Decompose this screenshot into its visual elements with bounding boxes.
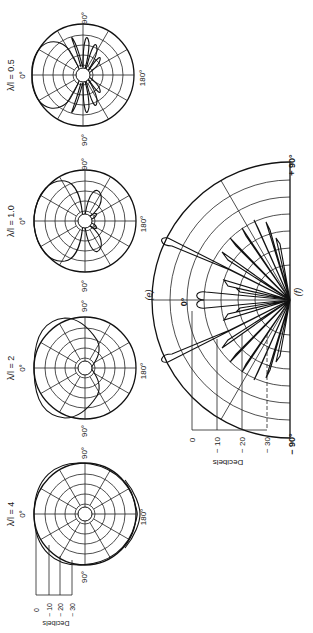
- label-90deg-top: 90°: [80, 158, 89, 170]
- plot-title-lambda-2: λ/l = 2: [6, 356, 16, 380]
- label-0deg: 0°: [18, 71, 27, 79]
- antenna-radiation-patterns-figure: λ/l = 0.5 0° 90° 90° 180° λ/l = 1.0 0° 9…: [0, 0, 313, 633]
- half-polar-plot-f: [152, 162, 290, 438]
- plot-title-lambda-1.0: λ/l = 1.0: [6, 205, 16, 237]
- label-plus-90deg: + 90°: [287, 154, 297, 176]
- svg-text:− 20: − 20: [57, 603, 64, 617]
- decibels-axis-label: Decibels: [42, 620, 69, 627]
- decibel-scale-small: 0 − 10 − 20 − 30 Decibels: [33, 529, 76, 627]
- svg-text:− 20: − 20: [238, 437, 247, 453]
- label-0deg: 0°: [18, 364, 27, 372]
- decibels-axis-label-f: Decibels: [213, 458, 244, 467]
- label-0deg: 0°: [18, 510, 27, 518]
- svg-text:0: 0: [33, 608, 40, 612]
- label-90deg-top: 90°: [80, 12, 89, 24]
- svg-text:0: 0: [188, 437, 197, 442]
- label-90deg-bottom: 90°: [80, 280, 89, 292]
- label-minus-90deg: − 90°: [287, 433, 297, 455]
- svg-text:− 10: − 10: [213, 437, 222, 453]
- panel-label-f: (f): [293, 288, 303, 297]
- label-180deg: 180°: [139, 216, 148, 233]
- svg-text:− 30: − 30: [263, 437, 272, 453]
- polar-plot-lambda-0.5: [32, 24, 134, 126]
- label-180deg: 180°: [138, 70, 147, 87]
- polar-plot-lambda-1.0: [34, 170, 136, 272]
- label-180deg: 180°: [139, 363, 148, 380]
- polar-plot-lambda-4: [34, 463, 140, 565]
- label-0deg-f: 0°: [179, 297, 189, 306]
- label-180deg: 180°: [139, 509, 148, 526]
- plot-title-lambda-0.5: λ/l = 0.5: [6, 59, 16, 91]
- label-90deg-top: 90°: [80, 447, 89, 459]
- label-90deg-top: 90°: [80, 300, 89, 312]
- polar-plot-lambda-2: [34, 317, 136, 419]
- svg-text:− 30: − 30: [69, 603, 76, 617]
- plot-title-lambda-4: λ/l = 4: [6, 502, 16, 526]
- label-90deg-bottom: 90°: [80, 571, 89, 583]
- label-90deg-bottom: 90°: [80, 425, 89, 437]
- label-90deg-bottom: 90°: [80, 134, 89, 146]
- label-0deg: 0°: [18, 217, 27, 225]
- svg-text:− 10: − 10: [46, 603, 53, 617]
